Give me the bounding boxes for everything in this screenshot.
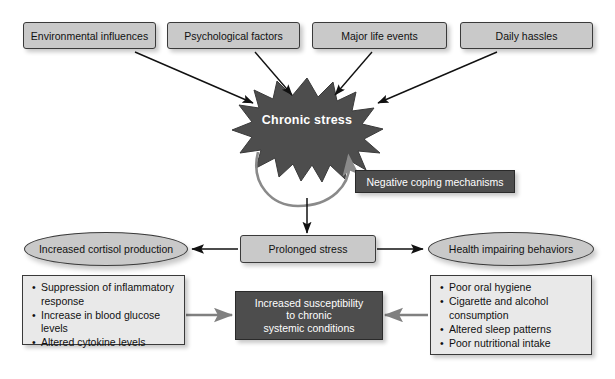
outcome-line-1: Increased susceptibility [255, 297, 364, 310]
source-box-environmental-influences[interactable]: Environmental influences [23, 22, 156, 49]
behavior-effects-panel: Poor oral hygiene Cigarette and alcohol … [430, 275, 592, 355]
health-behaviors-ellipse[interactable]: Health impairing behaviors [428, 232, 594, 266]
outcome-line-3: systemic conditions [263, 322, 354, 335]
stress-pathway-diagram: Environmental influences Psychological f… [0, 0, 615, 379]
source-label: Psychological factors [184, 30, 283, 42]
arrow-environmental-to-stress [135, 52, 253, 103]
source-label: Environmental influences [31, 30, 148, 42]
chronic-stress-burst [232, 78, 383, 182]
source-box-major-life-events[interactable]: Major life events [312, 22, 447, 49]
arrow-daily-hassles-to-stress [378, 52, 497, 103]
cortisol-effects-panel: Suppression of inflammatory response Inc… [22, 275, 185, 345]
arrow-major-life-events-to-stress [335, 52, 372, 95]
chronic-stress-label: Chronic stress [227, 113, 387, 127]
health-behaviors-label: Health impairing behaviors [449, 243, 573, 255]
negative-coping-label: Negative coping mechanisms [366, 176, 503, 188]
list-item: Cigarette and alcohol consumption [449, 295, 587, 322]
cortisol-label: Increased cortisol production [39, 243, 173, 255]
cortisol-ellipse[interactable]: Increased cortisol production [24, 232, 188, 266]
source-box-daily-hassles[interactable]: Daily hassles [460, 22, 593, 49]
list-item: Poor oral hygiene [449, 281, 587, 295]
source-label: Daily hassles [496, 30, 558, 42]
behavior-effects-list: Poor oral hygiene Cigarette and alcohol … [431, 276, 591, 355]
source-box-psychological-factors[interactable]: Psychological factors [167, 22, 300, 49]
prolonged-stress-label: Prolonged stress [269, 243, 348, 255]
list-item: Altered sleep patterns [449, 323, 587, 337]
list-item: Altered cytokine levels [41, 336, 180, 350]
outcome-box[interactable]: Increased susceptibility to chronic syst… [235, 291, 383, 340]
list-item: Increase in blood glucose levels [41, 309, 180, 336]
list-item: Poor nutritional intake [449, 337, 587, 351]
source-label: Major life events [341, 30, 417, 42]
outcome-line-2: to chronic [286, 309, 332, 322]
prolonged-stress-box[interactable]: Prolonged stress [240, 235, 376, 263]
arrow-psychological-to-stress [255, 52, 292, 95]
negative-coping-box[interactable]: Negative coping mechanisms [355, 170, 515, 193]
list-item: Suppression of inflammatory response [41, 281, 180, 308]
cortisol-effects-list: Suppression of inflammatory response Inc… [23, 276, 184, 354]
